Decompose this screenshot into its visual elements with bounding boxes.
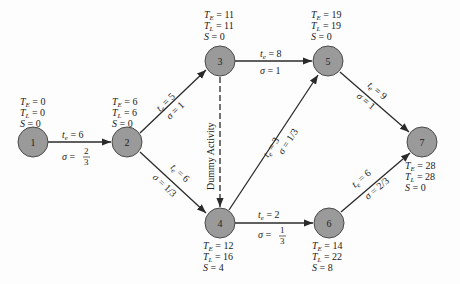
pert-network-diagram: 1 2 3 4 5 6 7 TE = 0 TL = 0 S = 0 TE = 6… bbox=[0, 0, 460, 284]
svg-text:S = 4: S = 4 bbox=[203, 262, 224, 273]
svg-text:3: 3 bbox=[280, 236, 285, 246]
edges bbox=[48, 61, 410, 223]
node-7-stats: TE = 28 TL = 28 S = 0 bbox=[405, 160, 435, 193]
svg-text:te = 6: te = 6 bbox=[167, 161, 192, 185]
svg-text:3: 3 bbox=[84, 157, 89, 167]
node-6-stats: TE = 14 TL = 22 S = 8 bbox=[312, 240, 342, 273]
node-7-label: 7 bbox=[420, 137, 425, 148]
svg-text:S = 0: S = 0 bbox=[204, 31, 225, 42]
edge-4-6-labels: te = 2 σ = 1 3 bbox=[258, 209, 286, 246]
svg-text:1: 1 bbox=[280, 225, 285, 235]
edge-3-5-labels: te = 8 σ = 1 bbox=[260, 48, 282, 76]
svg-text:S = 0: S = 0 bbox=[311, 31, 332, 42]
node-6-label: 6 bbox=[327, 218, 332, 229]
svg-text:te = 2: te = 2 bbox=[258, 209, 280, 222]
edge-2-4 bbox=[140, 152, 206, 213]
svg-text:S = 0: S = 0 bbox=[20, 118, 41, 129]
node-5-stats: TE = 19 TL = 19 S = 0 bbox=[311, 9, 341, 42]
svg-text:S = 0: S = 0 bbox=[405, 182, 426, 193]
diagram-canvas: 1 2 3 4 5 6 7 TE = 0 TL = 0 S = 0 TE = 6… bbox=[0, 0, 460, 284]
svg-text:te = 6: te = 6 bbox=[62, 129, 84, 142]
edge-5-7-labels: te = 9 σ = 1 bbox=[355, 79, 390, 112]
node-3-label: 3 bbox=[218, 56, 223, 67]
svg-text:2: 2 bbox=[84, 146, 89, 156]
node-5-label: 5 bbox=[326, 56, 331, 67]
edge-2-3-labels: te = 5 σ = 1 bbox=[154, 91, 186, 122]
edge-1-2-labels: te = 6 σ = 2 3 bbox=[62, 129, 90, 167]
edge-6-7-labels: te = 6 σ = 2/3 bbox=[349, 167, 391, 201]
svg-text:σ =: σ = bbox=[258, 229, 271, 240]
node-1-label: 1 bbox=[31, 137, 36, 148]
svg-text:S = 8: S = 8 bbox=[312, 262, 333, 273]
node-2-label: 2 bbox=[125, 137, 130, 148]
svg-text:σ = 1: σ = 1 bbox=[260, 65, 281, 76]
svg-text:Dummy Activity: Dummy Activity bbox=[205, 123, 216, 191]
node-4-label: 4 bbox=[218, 218, 223, 229]
svg-text:σ =: σ = bbox=[62, 151, 75, 162]
dummy-activity-label: Dummy Activity bbox=[205, 123, 216, 191]
svg-text:S = 0: S = 0 bbox=[112, 118, 133, 129]
node-2-stats: TE = 6 TL = 6 S = 0 bbox=[112, 96, 137, 129]
svg-text:te = 8: te = 8 bbox=[260, 48, 282, 61]
node-3-stats: TE = 11 TL = 11 S = 0 bbox=[204, 9, 234, 42]
node-4-stats: TE = 12 TL = 16 S = 4 bbox=[203, 240, 233, 273]
node-1-stats: TE = 0 TL = 0 S = 0 bbox=[20, 96, 45, 129]
